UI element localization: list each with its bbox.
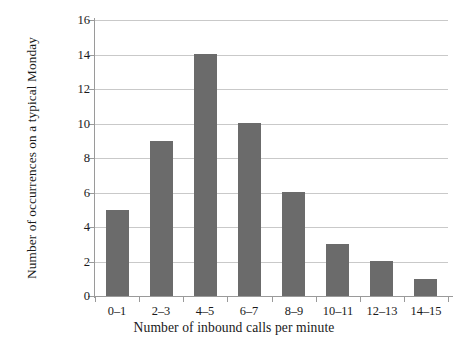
x-axis-tick-mark [360,297,361,302]
x-axis-tick-mark [139,297,140,302]
x-axis-tick-label: 2–3 [139,304,183,318]
x-axis-tick-label: 12–13 [360,304,404,318]
x-axis-tick-mark [227,297,228,302]
x-axis-tick-label: 8–9 [272,304,316,318]
x-axis-tick-mark [404,297,405,302]
x-axis-title: Number of inbound calls per minute [0,320,468,336]
x-axis-tick-label: 4–5 [183,304,227,318]
x-axis-tick-mark [183,297,184,302]
x-axis-tick-label: 14–15 [404,304,448,318]
x-axis-tick-mark [272,297,273,302]
histogram-chart: Number of occurrences on a typical Monda… [0,0,468,344]
x-axis-tick-mark [316,297,317,302]
x-axis-tick-mark [95,297,96,302]
x-axis-tick-mark [448,297,449,302]
x-axis-tick-label: 10–11 [316,304,360,318]
x-axis-tick-labels: 0–12–34–56–78–910–1112–1314–15 [0,0,468,344]
x-axis-tick-label: 6–7 [227,304,271,318]
x-axis-tick-label: 0–1 [95,304,139,318]
